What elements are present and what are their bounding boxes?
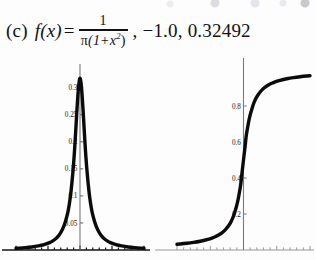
pdf-ytick-label: 0.3 <box>68 84 77 92</box>
charts-row: 0.050.10.150.20.250.3 0.20.40.60.8 <box>0 56 316 260</box>
cdf-axes <box>155 58 314 250</box>
chart-cauchy-pdf: 0.050.10.150.20.250.3 <box>0 56 152 260</box>
cdf-ytick-label: 0.8 <box>232 103 241 111</box>
cdf-ytick-label: 0.6 <box>232 139 241 147</box>
fraction-numerator: 1 <box>96 14 111 29</box>
denominator-close-paren: ) <box>121 32 126 47</box>
caption-parameters: , −1.0, 0.32492 <box>133 20 251 42</box>
cdf-svg: 0.20.40.60.8 <box>155 56 316 260</box>
formula-fraction: 1 π(1+x2) <box>79 14 128 47</box>
chart-cauchy-cdf: 0.20.40.60.8 <box>155 56 316 260</box>
denominator-rest: (1+x <box>88 32 116 47</box>
scan-artifact-band <box>0 0 316 9</box>
figure-caption: (c) f(x) = 1 π(1+x2) , −1.0, 0.32492 <box>6 14 251 47</box>
fraction-denominator: π(1+x2) <box>79 31 128 48</box>
pdf-svg: 0.050.10.150.20.250.3 <box>0 56 152 260</box>
figure-page: (c) f(x) = 1 π(1+x2) , −1.0, 0.32492 0.0… <box>0 0 316 260</box>
function-lhs: f(x) <box>35 20 62 42</box>
caption-label: (c) <box>6 20 28 42</box>
pi-symbol: π <box>81 32 88 47</box>
equals-sign: = <box>64 20 75 42</box>
